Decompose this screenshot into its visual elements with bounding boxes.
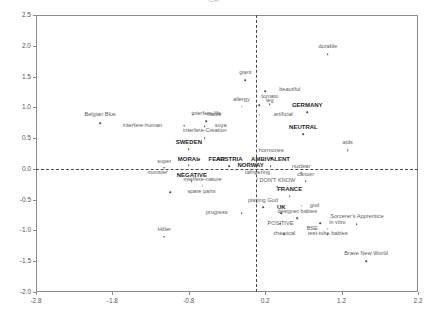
data-point: [188, 164, 190, 166]
x-tick-label: -2.8: [21, 297, 51, 304]
data-point: [164, 236, 166, 238]
data-point: [264, 91, 266, 93]
x-tick-mark: [418, 292, 419, 295]
x-tick-label: -0.8: [174, 297, 204, 304]
y-tick-label: -1.5: [4, 257, 31, 264]
data-point: [258, 105, 260, 107]
point-label: DON'T KNOW: [260, 178, 296, 184]
point-label: beautiful: [279, 88, 300, 94]
point-label: GERMANY: [292, 102, 323, 108]
data-point: [262, 206, 264, 208]
data-point: [241, 212, 243, 214]
y-tick-mark: [33, 230, 36, 231]
data-point: [99, 123, 101, 125]
y-tick-label: -2.0: [4, 288, 31, 295]
y-tick-mark: [33, 107, 36, 108]
y-tick-mark: [33, 77, 36, 78]
x-tick-mark: [189, 292, 190, 295]
point-label: tomato: [261, 94, 278, 100]
point-label: super: [157, 159, 171, 165]
y-tick-mark: [33, 15, 36, 16]
point-label: interfere-nature: [183, 177, 221, 183]
x-tick-mark: [265, 292, 266, 295]
data-point: [303, 134, 305, 136]
x-tick-label: -1.8: [97, 297, 127, 304]
data-point: [241, 106, 243, 108]
y-tick-label: 1.5: [4, 73, 31, 80]
point-label: artificial: [274, 112, 293, 118]
data-point: [327, 228, 329, 230]
data-point: [289, 195, 291, 197]
data-point: [257, 178, 259, 180]
data-point: [202, 185, 204, 187]
data-point: [270, 166, 272, 168]
y-tick-label: -1.0: [4, 226, 31, 233]
point-label: Belgian Blue: [84, 113, 115, 119]
data-point: [170, 191, 172, 193]
point-label: tampering: [245, 170, 270, 176]
y-tick-mark: [33, 138, 36, 139]
point-label: POSITIVE: [268, 221, 294, 227]
x-tick-label: 0.2: [250, 297, 280, 304]
data-point: [306, 111, 308, 113]
point-label: test-tube babies: [308, 231, 348, 237]
x-tick-mark: [112, 292, 113, 295]
y-tick-label: 2.0: [4, 42, 31, 49]
point-label: MORAL: [178, 156, 200, 162]
y-tick-mark: [33, 200, 36, 201]
x-tick-mark: [342, 292, 343, 295]
x-tick-mark: [36, 292, 37, 295]
y-tick-label: 1.0: [4, 103, 31, 110]
y-tick-label: 0.5: [4, 134, 31, 141]
data-point: [245, 79, 247, 81]
point-label: Brave New World: [344, 251, 387, 257]
point-label: durable: [319, 45, 338, 51]
point-label: cancer: [297, 172, 314, 178]
data-point: [305, 180, 307, 182]
point-label: NEUTRAL: [289, 124, 318, 130]
point-label: nuclear: [292, 164, 310, 170]
correspondence-analysis-figure: CA 2.52.01.51.00.50.0-0.5-1.0-1.5-2.0-2.…: [0, 0, 427, 323]
point-label: in vitro: [329, 220, 345, 226]
point-label: interfere-human: [123, 123, 163, 129]
point-label: NORWAY: [238, 162, 264, 168]
point-label: interfere-Creation: [183, 128, 227, 134]
x-tick-label: 2.2: [403, 297, 427, 304]
point-label: aids: [343, 141, 353, 147]
data-point: [269, 103, 271, 105]
data-point: [319, 222, 321, 224]
data-point: [365, 260, 367, 262]
point-label: progress: [206, 210, 228, 216]
horizontal-reference-line: [36, 169, 418, 170]
point-label: designer babies: [278, 209, 318, 215]
data-point: [296, 217, 298, 219]
point-label: spare parts: [187, 189, 215, 195]
data-point: [301, 205, 303, 207]
point-label: giant: [239, 70, 251, 76]
point-label: interfere-life: [192, 112, 222, 118]
point-label: Hitler: [158, 227, 171, 233]
point-label: chemical: [273, 231, 295, 237]
vertical-reference-line: [256, 15, 257, 292]
data-point: [188, 148, 190, 150]
point-label: playing God: [248, 198, 278, 204]
point-label: SWEDEN: [176, 139, 202, 145]
data-point: [259, 114, 261, 116]
data-point: [228, 166, 230, 168]
point-label: Sorcerer's Apprentice: [330, 214, 383, 220]
y-tick-label: -0.5: [4, 196, 31, 203]
point-label: allergy: [233, 97, 249, 103]
data-point: [356, 223, 358, 225]
x-tick-label: 1.2: [327, 297, 357, 304]
data-point: [347, 150, 349, 152]
data-point: [327, 54, 329, 56]
y-tick-mark: [33, 46, 36, 47]
point-label: hormones: [259, 149, 284, 155]
y-tick-label: 0.0: [4, 165, 31, 172]
y-tick-label: 2.5: [4, 11, 31, 18]
point-label: FRANCE: [277, 186, 302, 192]
point-label: monster: [147, 170, 167, 176]
data-point: [204, 137, 206, 139]
y-tick-mark: [33, 261, 36, 262]
figure-title: CA: [0, 0, 427, 4]
